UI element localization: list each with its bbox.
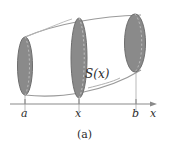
- x-axis-tick-label-b: b: [132, 108, 139, 119]
- cross-section-a-ellipse: [18, 37, 33, 95]
- x-axis-tick-label-x: x: [75, 108, 81, 119]
- x-axis: [10, 99, 157, 107]
- cross-section-figure: a x b x S(x) (a): [0, 0, 169, 149]
- cross-section-x: [71, 18, 87, 98]
- cross-section-b-ellipse: [125, 14, 146, 72]
- cross-section-a: [18, 37, 33, 95]
- cross-section-b: [125, 14, 146, 72]
- x-axis-label: x: [150, 108, 156, 119]
- area-function-label: S(x): [85, 68, 109, 80]
- upper-boundary-highlight: [25, 19, 72, 37]
- x-axis-tick-label-a: a: [21, 108, 28, 119]
- figure-caption: (a): [0, 128, 169, 141]
- x-axis-arrowhead: [150, 101, 157, 106]
